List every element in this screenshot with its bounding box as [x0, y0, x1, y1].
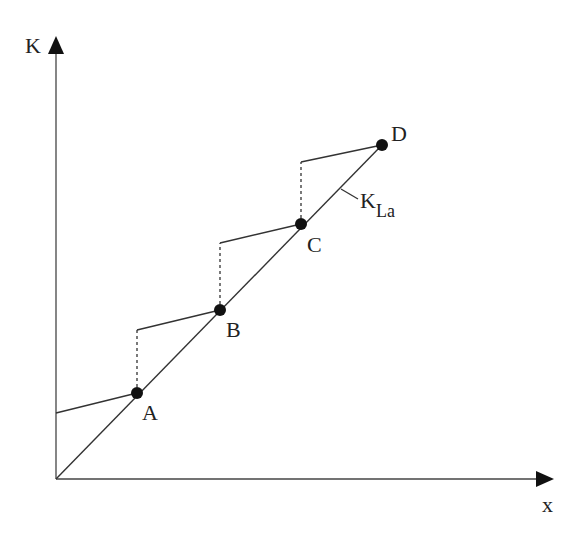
step-line-c-d [301, 145, 382, 162]
kla-leader-line [341, 189, 358, 199]
point-a [131, 387, 143, 399]
step-line-0 [56, 393, 137, 413]
y-axis-arrow-icon [48, 36, 64, 54]
y-axis-label: K [25, 33, 41, 58]
point-c-label: C [307, 232, 322, 257]
point-b-label: B [226, 317, 241, 342]
kla-label-main: K [360, 188, 376, 213]
point-b [214, 304, 226, 316]
step-line-a-b [137, 310, 220, 330]
point-d [376, 139, 388, 151]
kla-label: KLa [360, 188, 395, 221]
x-axis-label: x [542, 492, 553, 517]
point-c [295, 218, 307, 230]
diagram-canvas: K x A B C D KLa [0, 0, 586, 541]
kla-label-subscript: La [376, 201, 395, 221]
x-axis-arrow-icon [536, 471, 554, 487]
point-a-label: A [142, 400, 158, 425]
point-d-label: D [391, 121, 407, 146]
